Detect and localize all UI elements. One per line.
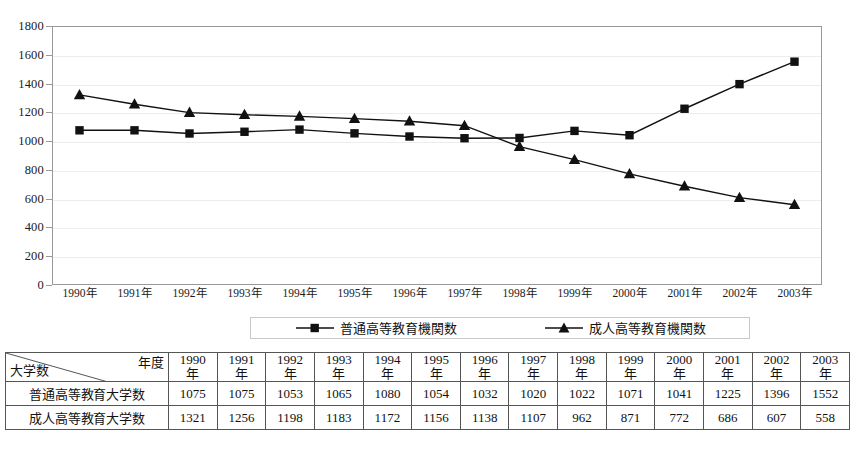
table-cell: 1107 — [509, 406, 558, 430]
data-point-square — [350, 129, 358, 137]
table-cell: 1138 — [460, 406, 509, 430]
data-point-square — [790, 57, 798, 65]
x-axis: 1990年1991年1992年1993年1994年1995年1996年1997年… — [52, 288, 822, 310]
table-year-header: 1995年 — [412, 353, 461, 382]
y-axis-tick-label: 1200 — [18, 106, 44, 119]
year-suffix: 年 — [461, 367, 509, 381]
y-axis-tick-label: 1800 — [18, 20, 44, 33]
x-axis-tick-label: 1996年 — [393, 288, 427, 300]
table-cell: 686 — [704, 406, 753, 430]
series-triangle — [74, 89, 800, 209]
x-axis-tick-label: 1994年 — [283, 288, 317, 300]
legend-label: 成人高等教育機関数 — [589, 322, 706, 335]
data-point-square — [295, 125, 303, 133]
table-corner-year-label: 年度 — [138, 355, 164, 371]
series-square — [75, 57, 798, 142]
data-point-square — [460, 134, 468, 142]
table-cell: 558 — [801, 406, 850, 430]
table-cell: 1041 — [655, 382, 704, 406]
table-cell: 1020 — [509, 382, 558, 406]
table-year-header: 2001年 — [704, 353, 753, 382]
table-cell: 1053 — [266, 382, 315, 406]
table-cell: 871 — [606, 406, 655, 430]
year-suffix: 年 — [266, 367, 314, 381]
table-year-header: 2000年 — [655, 353, 704, 382]
data-point-square — [625, 131, 633, 139]
x-axis-tick-label: 2000年 — [613, 288, 647, 300]
table-cell: 1172 — [363, 406, 412, 430]
chart-legend: 普通高等教育機関数成人高等教育機関数 — [250, 317, 750, 339]
table-row: 成人高等教育大学数1321125611981183117211561138110… — [6, 406, 850, 430]
table-year-header: 1992年 — [266, 353, 315, 382]
table-corner-count-label: 大学数 — [10, 363, 49, 379]
year-number: 2000 — [655, 353, 703, 367]
series-line — [80, 62, 795, 139]
table-cell: 1054 — [412, 382, 461, 406]
data-point-square — [185, 129, 193, 137]
legend-entry: 成人高等教育機関数 — [543, 322, 706, 335]
year-suffix: 年 — [218, 367, 266, 381]
x-axis-tick-label: 1995年 — [338, 288, 372, 300]
table-cell: 1022 — [558, 382, 607, 406]
table-cell: 1396 — [752, 382, 801, 406]
table-cell: 1183 — [314, 406, 363, 430]
year-number: 2002 — [753, 353, 801, 367]
table-cell: 962 — [558, 406, 607, 430]
table-cell: 772 — [655, 406, 704, 430]
table-cell: 1156 — [412, 406, 461, 430]
table-cell: 1256 — [217, 406, 266, 430]
y-axis-tick-label: 200 — [25, 250, 44, 263]
year-suffix: 年 — [558, 367, 606, 381]
table-corner-cell: 年度大学数 — [6, 353, 169, 382]
x-axis-tick-label: 2001年 — [668, 288, 702, 300]
data-point-square — [405, 132, 413, 140]
data-table-container: 年度大学数1990年1991年1992年1993年1994年1995年1996年… — [5, 352, 850, 430]
data-table: 年度大学数1990年1991年1992年1993年1994年1995年1996年… — [5, 352, 850, 430]
table-year-header: 1990年 — [169, 353, 218, 382]
data-point-square — [130, 126, 138, 134]
year-number: 1994 — [364, 353, 412, 367]
year-suffix: 年 — [607, 367, 655, 381]
table-row-label: 成人高等教育大学数 — [6, 406, 169, 430]
y-axis-tick-label: 1000 — [18, 135, 44, 148]
year-suffix: 年 — [753, 367, 801, 381]
table-cell: 1552 — [801, 382, 850, 406]
chart-and-table-figure: 020040060080010001200140016001800 1990年1… — [0, 0, 854, 454]
table-year-header: 1997年 — [509, 353, 558, 382]
data-point-square — [240, 128, 248, 136]
x-axis-tick-label: 1993年 — [228, 288, 262, 300]
year-suffix: 年 — [412, 367, 460, 381]
legend-label: 普通高等教育機関数 — [340, 322, 457, 335]
y-axis-tick-label: 0 — [38, 279, 44, 292]
year-suffix: 年 — [169, 367, 217, 381]
table-year-header: 1996年 — [460, 353, 509, 382]
year-suffix: 年 — [509, 367, 557, 381]
year-number: 2001 — [704, 353, 752, 367]
year-suffix: 年 — [315, 367, 363, 381]
data-point-square — [680, 105, 688, 113]
table-cell: 1075 — [169, 382, 218, 406]
series-layer — [52, 26, 822, 285]
y-axis-tick-label: 600 — [25, 192, 44, 205]
data-point-triangle — [294, 110, 305, 120]
x-axis-tick-label: 1998年 — [503, 288, 537, 300]
x-axis-tick-label: 1990年 — [63, 288, 97, 300]
x-axis-tick-label: 1991年 — [118, 288, 152, 300]
data-point-square — [570, 127, 578, 135]
table-cell: 607 — [752, 406, 801, 430]
legend-triangle-icon — [543, 322, 585, 334]
data-point-triangle — [74, 89, 85, 99]
y-axis-tick-mark — [46, 285, 52, 286]
year-suffix: 年 — [364, 367, 412, 381]
table-year-header: 1998年 — [558, 353, 607, 382]
line-chart: 020040060080010001200140016001800 1990年1… — [0, 0, 854, 345]
y-axis-tick-label: 1400 — [18, 77, 44, 90]
year-number: 1992 — [266, 353, 314, 367]
year-suffix: 年 — [704, 367, 752, 381]
table-cell: 1065 — [314, 382, 363, 406]
table-year-header: 1993年 — [314, 353, 363, 382]
year-number: 1991 — [218, 353, 266, 367]
year-suffix: 年 — [801, 367, 849, 381]
year-number: 1995 — [412, 353, 460, 367]
x-axis-tick-label: 1992年 — [173, 288, 207, 300]
